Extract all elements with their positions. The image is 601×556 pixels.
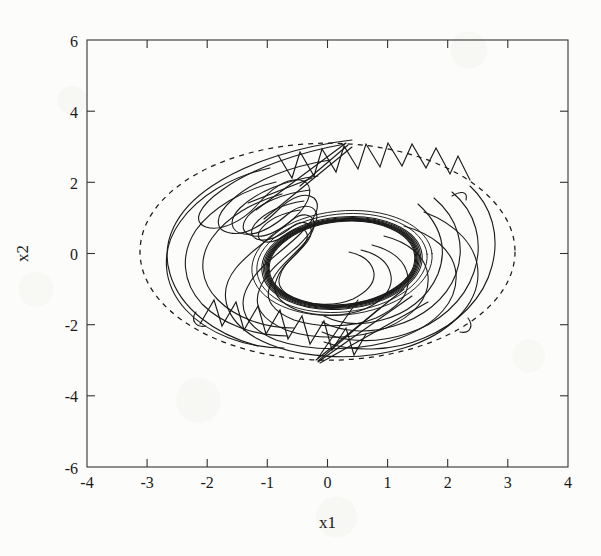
phase-portrait-plot: -4 -3 -2 -1 0 1 2 3 4 6 4 2 0 -2 -4 -6 x… (0, 0, 601, 556)
trajectory-left-2 (185, 182, 288, 336)
y-tick-label: -4 (65, 388, 78, 405)
dashed-boundary-ellipse (140, 143, 515, 360)
axes-frame (87, 40, 568, 467)
y-tick-label: -6 (65, 460, 78, 477)
y-axis-title: x2 (13, 245, 32, 262)
y-axis-ticks-right (560, 111, 568, 396)
x-axis-ticks (147, 459, 508, 467)
chatter-sawtooth-lower (278, 143, 470, 180)
limit-cycle-bundle (247, 202, 438, 324)
x-tick-label: -3 (140, 474, 153, 491)
switching-chord-upper-b (264, 147, 352, 219)
x-tick-label: 0 (324, 474, 332, 491)
x-axis-ticks-top (147, 40, 508, 48)
switching-chord-upper-d (248, 178, 312, 203)
x-tick-label: -4 (80, 474, 93, 491)
y-tick-label: 2 (70, 175, 78, 192)
x-tick-label: 4 (564, 474, 572, 491)
y-axis-ticks (87, 111, 95, 396)
x-tick-label: -1 (261, 474, 274, 491)
figure-canvas: -4 -3 -2 -1 0 1 2 3 4 6 4 2 0 -2 -4 -6 x… (0, 0, 601, 556)
x-tick-label: 1 (384, 474, 392, 491)
x-axis-title: x1 (319, 513, 336, 532)
trajectory-outer-1 (199, 144, 478, 357)
y-tick-label: 0 (70, 246, 78, 263)
y-tick-label: -2 (65, 317, 78, 334)
x-tick-label: 3 (504, 474, 512, 491)
x-tick-label: 2 (444, 474, 452, 491)
x-tick-label: -2 (201, 474, 214, 491)
y-tick-label: 6 (70, 33, 78, 50)
y-tick-label: 4 (70, 104, 78, 121)
trajectory-layer (140, 140, 515, 363)
